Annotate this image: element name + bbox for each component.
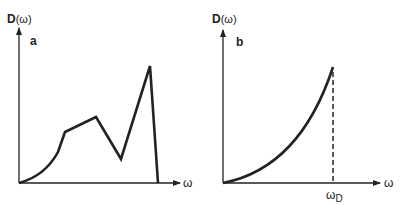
panel-b-y-label-main: D <box>212 12 221 26</box>
panel-b <box>223 30 380 183</box>
panel-b-cutoff-sub: D <box>335 193 342 204</box>
panel-b-y-label-arg: (ω) <box>221 13 237 25</box>
panel-b-cutoff-main: ω <box>326 188 335 202</box>
panel-a-dos-curve <box>19 66 158 183</box>
panel-a-label: a <box>30 35 37 47</box>
panel-a-y-label-arg: (ω) <box>16 13 32 25</box>
panel-b-label: b <box>236 36 243 48</box>
diagram-canvas <box>0 0 406 205</box>
panel-b-y-axis-label: D(ω) <box>212 13 237 25</box>
panel-a-x-axis-label: ω <box>183 177 192 189</box>
panel-b-debye-curve <box>223 67 333 183</box>
panel-b-x-axis-label: ω <box>384 177 393 189</box>
panel-b-cutoff-label: ωD <box>326 189 343 201</box>
panel-a-y-label-main: D <box>7 12 16 26</box>
panel-a <box>19 28 180 183</box>
panel-a-y-axis-label: D(ω) <box>7 13 32 25</box>
